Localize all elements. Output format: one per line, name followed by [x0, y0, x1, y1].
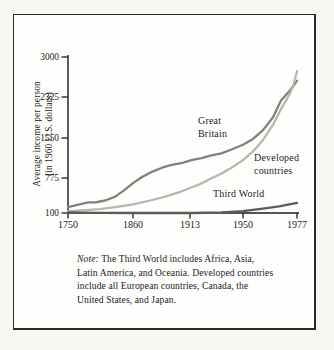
x-tick-label: 1977 [287, 219, 307, 230]
x-tick-label: 1950 [233, 219, 253, 230]
curve-label-great-britain: Great Britain [198, 114, 227, 140]
note-prefix-label: Note: [77, 253, 99, 264]
curve-label-developed-countries: Developed countries [254, 151, 299, 177]
figure-note: Note: The Third World includes Africa, A… [77, 252, 275, 306]
curve-label-third-world: Third World [213, 187, 264, 200]
x-tick-label: 1860 [123, 219, 143, 230]
y-axis-title: Average income per person (in 1960 U.S. … [32, 48, 55, 220]
note-body-text: The Third World includes Africa, Asia, L… [77, 253, 273, 305]
figure-page: 10077515502325300017501860191319501977 A… [0, 0, 334, 350]
x-tick-label: 1913 [180, 219, 200, 230]
x-tick-label: 1750 [58, 219, 78, 230]
